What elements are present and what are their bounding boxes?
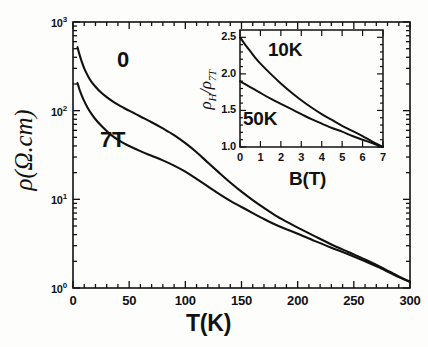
inset-curve-label-50k: 50K [243,108,277,130]
main-x-tick-label: 250 [334,293,374,308]
main-x-tick-label: 0 [53,293,93,308]
inset-y-tick-label: 2.0 [208,67,236,79]
main-x-axis-title: T(K) [186,310,231,337]
main-y-tick-label: 102 [31,104,67,118]
inset-x-tick-label: 0 [230,151,250,163]
main-x-tick-label: 300 [390,293,428,308]
inset-curve-label-10k: 10K [268,39,302,61]
inset-y-tick-label: 1.5 [208,103,236,115]
curve-label-zero-field: 0 [117,47,129,73]
main-x-tick-label: 200 [278,293,318,308]
inset-x-tick-label: 5 [332,151,352,163]
inset-x-axis-title: B(T) [289,168,326,190]
inset-y-tick-label: 2.5 [208,30,236,42]
inset-data-curves [240,37,383,147]
figure-panel: ρ(Ω.cm) T(K) 0 7T 100101102103 050100150… [0,0,428,347]
inset-x-tick-label: 6 [353,151,373,163]
inset-x-tick-label: 2 [271,151,291,163]
main-x-tick-label: 100 [165,293,205,308]
inset-x-tick-label: 3 [291,151,311,163]
inset-x-tick-label: 4 [312,151,332,163]
main-x-tick-label: 150 [222,293,262,308]
inset-curve-10k [240,37,383,147]
inset-x-tick-label: 7 [373,151,393,163]
main-y-tick-label: 103 [31,15,67,29]
main-y-tick-label: 101 [31,192,67,206]
curve-label-seven-tesla: 7T [100,127,125,153]
main-x-tick-label: 50 [109,293,149,308]
inset-y-axis-title: ρH/ρ7T [196,38,217,142]
inset-x-tick-label: 1 [250,151,270,163]
